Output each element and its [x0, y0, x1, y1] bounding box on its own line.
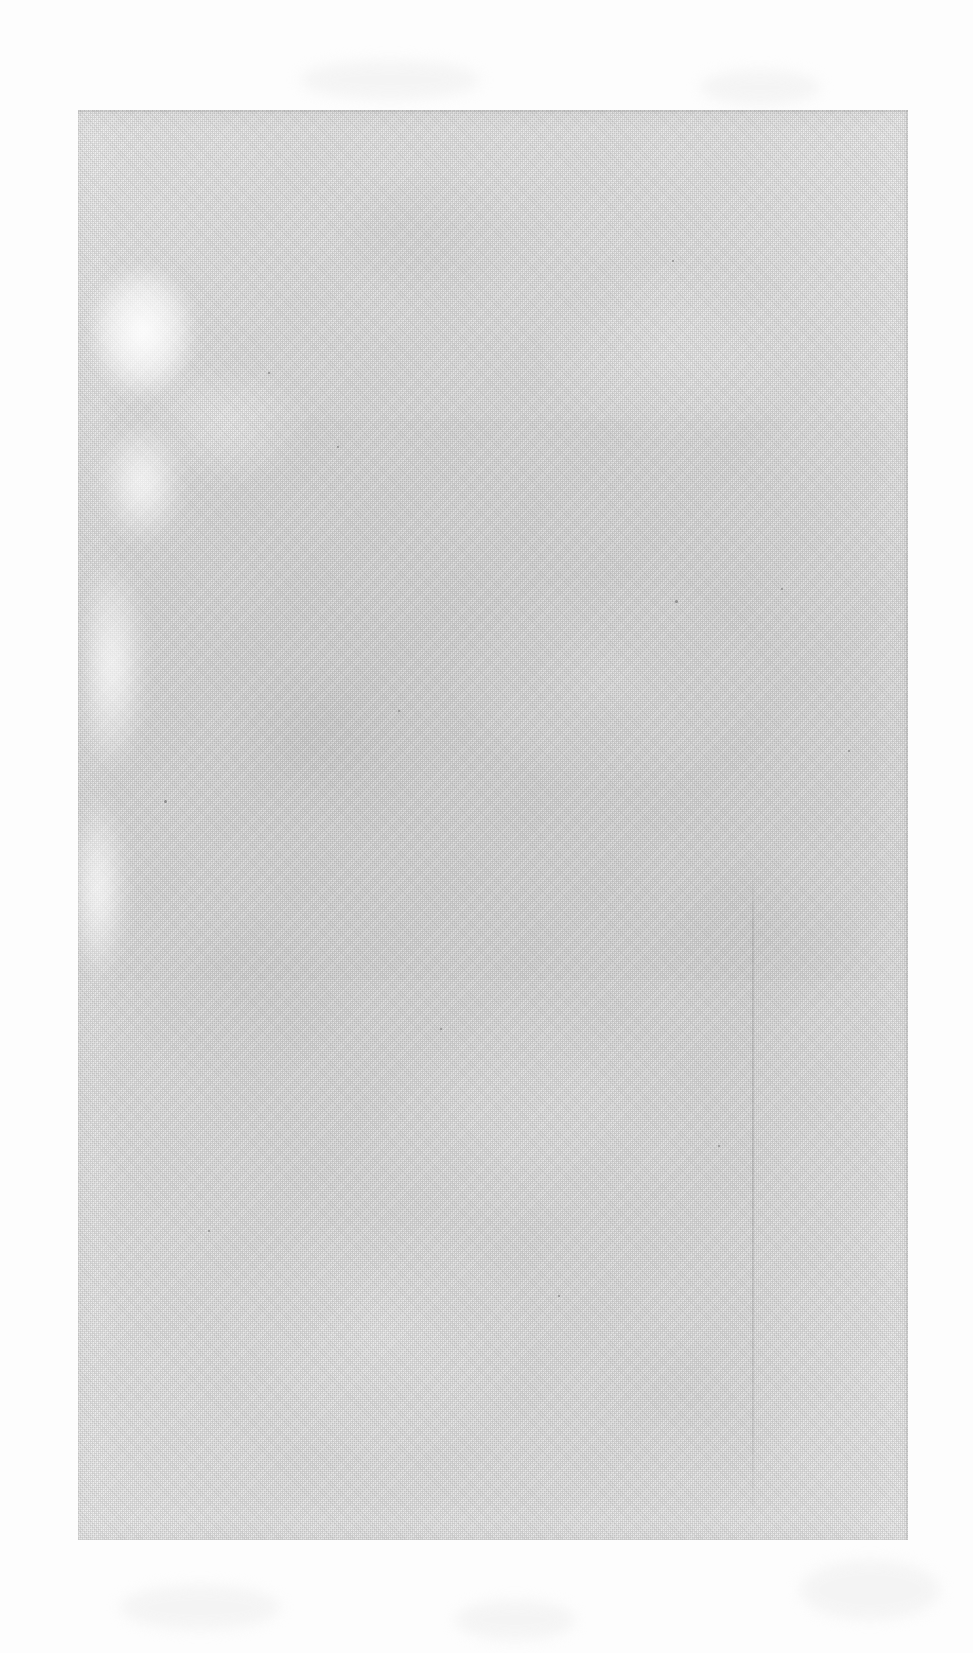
dust-speck [268, 372, 270, 374]
dust-speck [675, 600, 678, 603]
dust-speck [558, 1295, 560, 1297]
dust-speck [781, 588, 783, 590]
dust-speck [672, 260, 674, 262]
page-top-edge [78, 110, 908, 113]
dust-speck [337, 446, 339, 448]
bed-ghost-mark [455, 1600, 575, 1640]
page-right-edge [905, 110, 908, 1540]
dust-speck [164, 800, 167, 803]
dust-speck [718, 1145, 720, 1147]
vertical-crease-line [752, 870, 754, 1530]
scan-viewport [0, 0, 973, 1653]
bed-ghost-mark [300, 60, 480, 100]
paper-grain-coarse [78, 110, 908, 1540]
dust-speck [208, 1230, 210, 1232]
bed-ghost-mark [800, 1560, 940, 1620]
bed-ghost-mark [120, 1585, 280, 1630]
scanned-page [78, 110, 908, 1540]
dust-speck [848, 750, 850, 752]
bed-ghost-mark [700, 70, 820, 105]
dust-speck [398, 710, 400, 712]
dust-speck [440, 1028, 442, 1030]
